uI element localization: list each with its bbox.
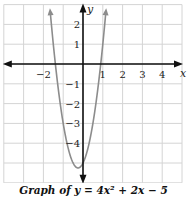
y-tick-label: −4 (65, 138, 80, 149)
x-tick-label: 2 (119, 69, 125, 80)
y-tick-label: 1 (74, 39, 80, 50)
x-axis-label: x (180, 67, 187, 80)
y-tick-label: 2 (74, 19, 80, 30)
chart-caption: Graph of y = 4x² + 2x − 5 (0, 184, 187, 196)
grid (4, 5, 182, 183)
x-tick-label: 3 (139, 69, 145, 80)
y-tick-label: −1 (65, 79, 80, 90)
x-tick-label: −2 (36, 69, 51, 80)
parabola-graph: −2123421−1−2−3−4xy (0, 0, 187, 183)
x-tick-label: 4 (159, 69, 165, 80)
y-axis-label: y (86, 3, 94, 16)
y-tick-label: −2 (65, 99, 80, 110)
axes (3, 4, 183, 183)
x-tick-label: 1 (100, 69, 106, 80)
y-tick-label: −3 (65, 118, 80, 129)
